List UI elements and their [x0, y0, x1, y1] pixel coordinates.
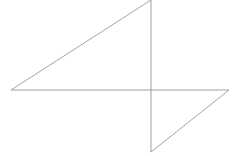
figure-canvas — [0, 0, 240, 156]
upper-left-hypotenuse — [11, 0, 151, 90]
lower-right-hypotenuse — [151, 90, 229, 152]
line-figure-svg — [0, 0, 240, 156]
